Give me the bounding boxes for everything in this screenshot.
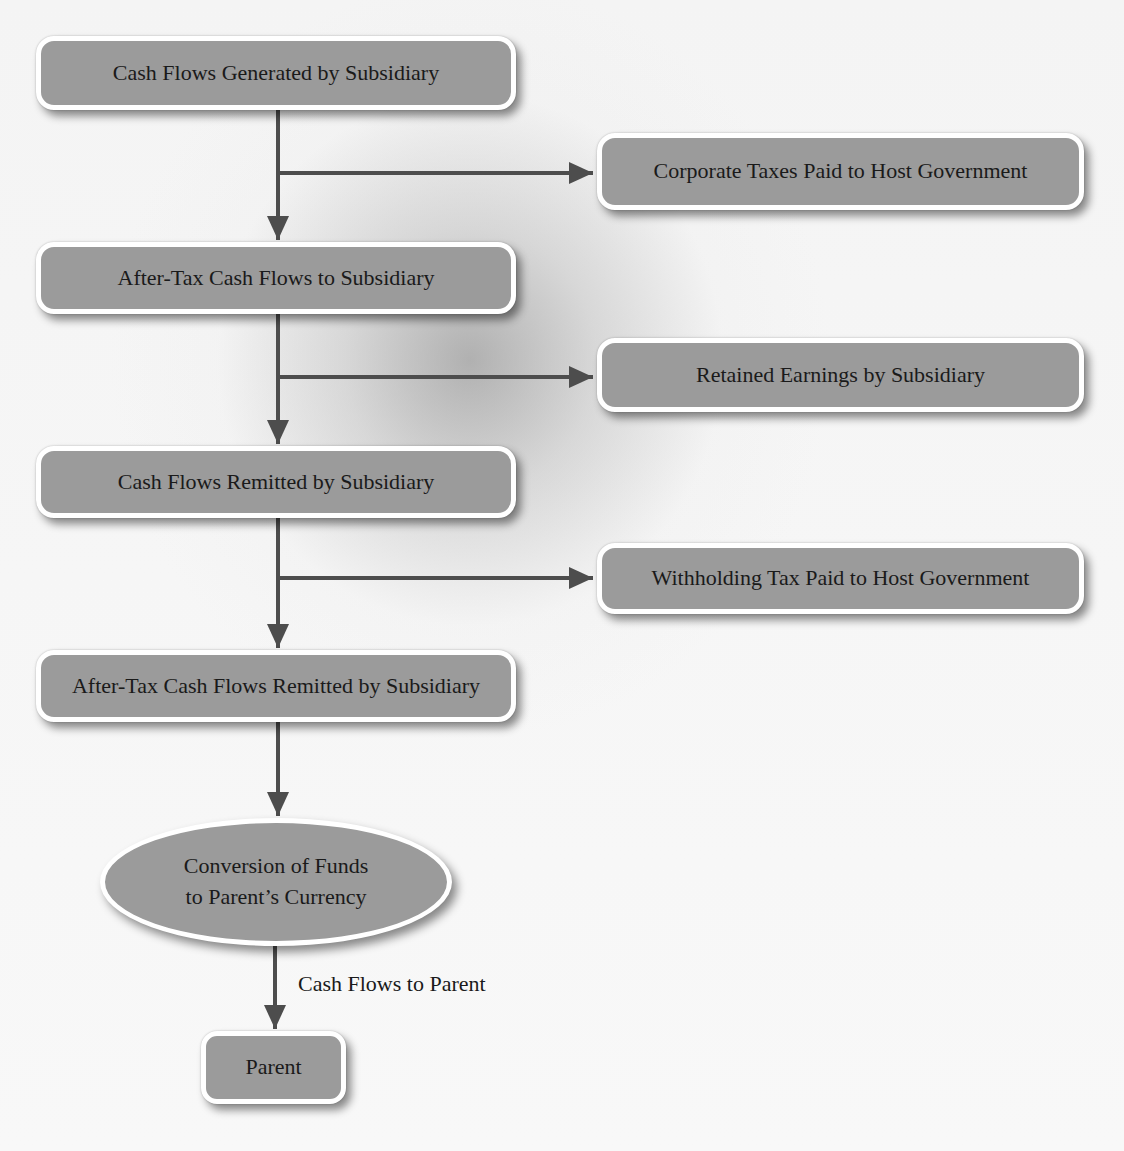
conversion-line-2: to Parent’s Currency xyxy=(186,882,367,913)
node-label: Cash Flows Generated by Subsidiary xyxy=(113,59,439,88)
node-corporate-taxes: Corporate Taxes Paid to Host Government xyxy=(597,133,1084,210)
node-label: Corporate Taxes Paid to Host Government xyxy=(654,157,1028,186)
node-label: Retained Earnings by Subsidiary xyxy=(696,361,985,390)
node-retained-earnings: Retained Earnings by Subsidiary xyxy=(597,338,1084,412)
node-after-tax-remitted: After-Tax Cash Flows Remitted by Subsidi… xyxy=(36,650,516,722)
node-label: After-Tax Cash Flows Remitted by Subsidi… xyxy=(72,672,480,701)
conversion-line-1: Conversion of Funds xyxy=(184,851,369,882)
node-label: After-Tax Cash Flows to Subsidiary xyxy=(118,264,435,293)
node-cash-flows-generated: Cash Flows Generated by Subsidiary xyxy=(36,36,516,110)
node-cash-flows-remitted: Cash Flows Remitted by Subsidiary xyxy=(36,446,516,518)
node-currency-conversion: Conversion of Funds to Parent’s Currency xyxy=(100,818,452,946)
node-label: Withholding Tax Paid to Host Government xyxy=(652,564,1030,593)
edge-label-cash-flows-to-parent: Cash Flows to Parent xyxy=(298,971,486,997)
node-parent: Parent xyxy=(201,1031,346,1104)
node-label: Cash Flows Remitted by Subsidiary xyxy=(118,468,435,497)
node-withholding-tax: Withholding Tax Paid to Host Government xyxy=(597,543,1084,614)
node-after-tax-cash-flows: After-Tax Cash Flows to Subsidiary xyxy=(36,242,516,314)
node-label: Parent xyxy=(245,1053,301,1082)
